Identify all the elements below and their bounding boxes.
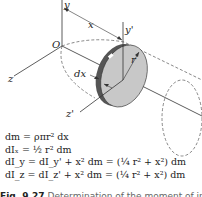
equation-block: dm = ρπr² dx dIₓ = ½ r² dm dI_y = dI_y' … xyxy=(5,131,186,181)
equation-dIz: dI_z = dI_z' + x² dm = (¼ r² + x²) dm xyxy=(5,169,186,182)
z-axis xyxy=(14,46,62,76)
figure-caption: Fig. 9.27 Determination of the moment of… xyxy=(0,191,202,197)
label-dx: dx xyxy=(74,68,86,79)
equation-dm: dm = ρπr² dx xyxy=(5,131,186,144)
equation-dIy: dI_y = dI_y' + x² dm = (¼ r² + x²) dm xyxy=(5,156,186,169)
disk-face xyxy=(92,38,155,113)
label-y: y xyxy=(63,0,70,10)
label-y-prime: y' xyxy=(124,24,133,35)
caption-text: Determination of the moment of inertia xyxy=(48,191,202,197)
label-origin: O xyxy=(52,39,60,50)
label-z-prime: z' xyxy=(65,108,74,119)
label-z: z xyxy=(7,73,14,84)
arrowhead xyxy=(117,36,122,40)
equation-dIx: dIₓ = ½ r² dm xyxy=(5,144,186,157)
label-x: x xyxy=(88,19,94,30)
caption-number: Fig. 9.27 xyxy=(0,191,44,197)
